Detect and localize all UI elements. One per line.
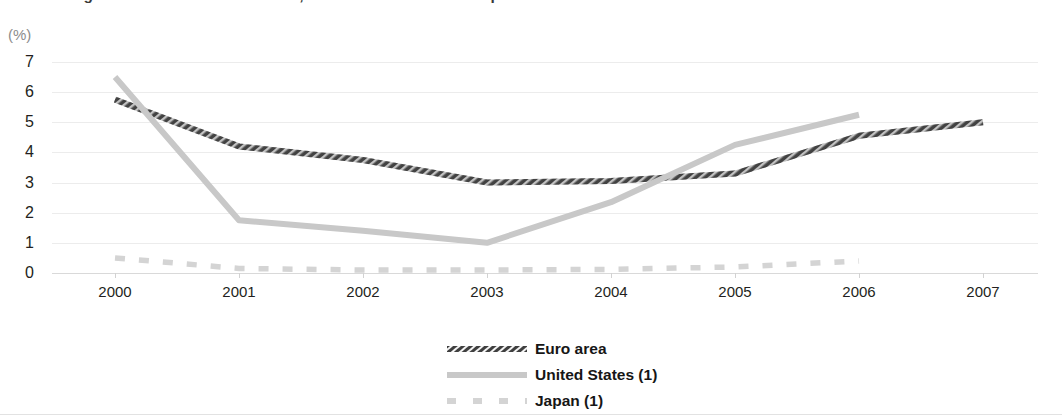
y-axis-tick-label: 3 [8, 175, 34, 191]
legend-item[interactable]: United States (1) [0, 362, 1062, 388]
legend-swatch-icon [447, 342, 527, 356]
title-strip: Real GDP growth rates in the euro area, … [0, 0, 1062, 6]
chart-legend: Euro areaUnited States (1)Japan (1) [0, 336, 1062, 414]
bottom-divider [0, 414, 1062, 415]
y-axis-tick-label: 2 [8, 205, 34, 221]
legend-item[interactable]: Euro area [0, 336, 1062, 362]
legend-item-label: United States (1) [535, 367, 657, 383]
legend-swatch-icon [447, 368, 527, 382]
y-axis-tick-label: 7 [8, 54, 34, 70]
legend-item[interactable]: Japan (1) [0, 388, 1062, 414]
series-line-euro-area [52, 42, 1038, 293]
y-axis-unit-label: (%) [8, 26, 31, 44]
page-title: Real GDP growth rates in the euro area, … [0, 0, 1062, 4]
y-axis-tick-label: 5 [8, 114, 34, 130]
y-axis-tick-label: 4 [8, 144, 34, 160]
y-axis-tick-label: 0 [8, 265, 34, 281]
series-lines [52, 62, 1038, 273]
y-axis-tick-label: 6 [8, 84, 34, 100]
chart-plot-area: 01234567 2000200120022003200420052006200… [52, 62, 1038, 273]
legend-item-label: Japan (1) [535, 393, 603, 409]
legend-swatch-icon [447, 394, 527, 408]
legend-item-label: Euro area [535, 341, 607, 357]
y-axis-tick-label: 1 [8, 235, 34, 251]
